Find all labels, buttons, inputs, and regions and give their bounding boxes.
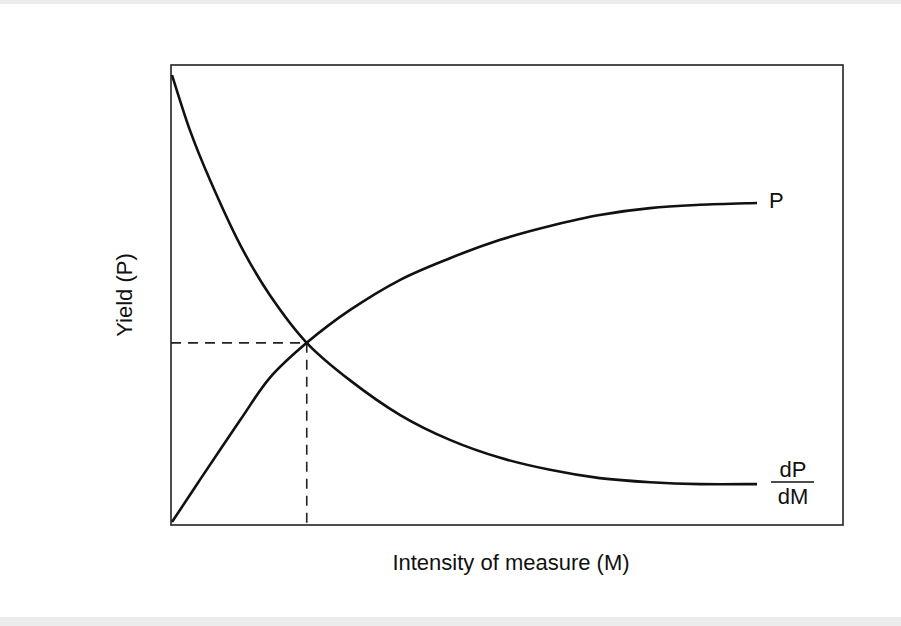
series-label-dp-dm-numerator: dP (780, 457, 807, 482)
guides (171, 343, 307, 525)
x-axis-label: Intensity of measure (M) (392, 550, 629, 575)
series-label-p: P (769, 188, 784, 213)
series-label-dp-dm-denominator: dM (778, 484, 809, 509)
y-axis-label: Yield (P) (112, 253, 137, 337)
series-line-p (172, 203, 757, 522)
series-label-dp-dm: dP dM (771, 457, 814, 509)
series-line-dp-dm (172, 75, 757, 484)
chart: Intensity of measure (M) Yield (P) P dP … (0, 0, 901, 626)
plot-frame (171, 65, 843, 525)
series-layer (172, 75, 757, 522)
